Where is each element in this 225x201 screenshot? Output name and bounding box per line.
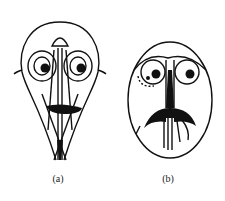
panel-label-b: (b) — [148, 173, 188, 184]
figure-panel-b-drawing — [118, 30, 222, 170]
panel-label-a: (a) — [38, 173, 78, 184]
figure-panel-a-drawing — [8, 10, 112, 170]
